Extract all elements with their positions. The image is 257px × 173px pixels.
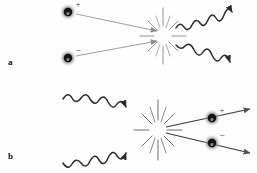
panel-a-group: e + e − bbox=[59, 0, 232, 67]
panel-b-photon-upper bbox=[63, 95, 126, 107]
panel-label-b: b bbox=[8, 152, 13, 161]
panel-b-positron-letter: e bbox=[211, 115, 214, 122]
panel-b-electron-charge: − bbox=[219, 130, 224, 140]
panel-b-group: e + e − bbox=[63, 95, 250, 168]
panel-a-collision-starburst bbox=[140, 8, 186, 64]
panel-b-electron-marker: e − bbox=[203, 130, 225, 152]
panel-a-electron-trajectory bbox=[76, 41, 157, 56]
panel-b-electron-letter: e bbox=[211, 140, 214, 147]
panel-a-photon-lower bbox=[176, 44, 230, 62]
panel-a-positron-trajectory bbox=[76, 14, 157, 31]
panel-b-positron-charge: + bbox=[220, 106, 225, 115]
figure-canvas: e + e − bbox=[0, 0, 257, 173]
panel-a-photon-upper bbox=[176, 9, 232, 29]
panel-a-electron-letter: e bbox=[67, 55, 70, 62]
panel-a-positron-charge: + bbox=[76, 0, 81, 9]
panel-label-a: a bbox=[8, 58, 13, 67]
physics-diagram-svg: e + e − bbox=[0, 0, 257, 173]
panel-b-positron-marker: e + bbox=[203, 106, 225, 127]
panel-b-collision-starburst bbox=[134, 100, 182, 160]
panel-a-positron-letter: e bbox=[67, 9, 70, 16]
panel-a-positron-marker: e + bbox=[59, 0, 81, 21]
panel-a-electron-charge: − bbox=[75, 45, 80, 55]
panel-b-photon-lower bbox=[63, 152, 126, 167]
